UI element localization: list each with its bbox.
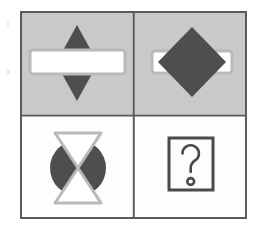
cell-bottom-left[interactable]: [21, 117, 133, 218]
puzzle-canvas: [0, 0, 258, 229]
cell-top-left[interactable]: [21, 12, 133, 114]
cell-top-right[interactable]: [135, 12, 246, 114]
scan-speck: [7, 22, 9, 26]
analogy-matrix: [0, 0, 258, 229]
horizontal-bar-shape: [30, 50, 125, 74]
cell-bottom-right[interactable]: [135, 117, 246, 218]
scan-speck: [7, 70, 10, 74]
